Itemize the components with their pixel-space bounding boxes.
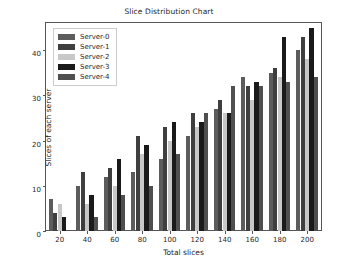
bar-group — [131, 23, 153, 231]
x-tick-mark — [252, 231, 253, 234]
x-tick-mark — [115, 231, 116, 234]
bar-group — [241, 23, 263, 231]
x-tick-mark — [142, 231, 143, 234]
x-tick-mark — [87, 231, 88, 234]
chart-title: Slice Distribution Chart — [0, 7, 338, 16]
bar-group — [269, 23, 291, 231]
bar — [62, 217, 66, 231]
bar — [231, 86, 235, 231]
bar-group — [159, 23, 181, 231]
legend-label: Server-4 — [80, 72, 110, 82]
bar — [204, 113, 208, 231]
x-tick-mark — [170, 231, 171, 234]
bar-group — [186, 23, 208, 231]
legend-swatch-icon — [58, 64, 75, 70]
chart-legend: Server-0Server-1Server-2Server-3Server-4 — [53, 28, 117, 86]
legend-item: Server-3 — [58, 62, 110, 72]
legend-item: Server-4 — [58, 72, 110, 82]
x-axis-label: Total slices — [45, 248, 322, 257]
legend-item: Server-0 — [58, 32, 110, 42]
bar-group — [214, 23, 236, 231]
legend-label: Server-1 — [80, 42, 110, 52]
legend-swatch-icon — [58, 54, 75, 60]
legend-swatch-icon — [58, 34, 75, 40]
bar — [121, 195, 125, 231]
chart-figure: Slice Distribution Chart 010203040 20406… — [0, 0, 338, 268]
bar — [176, 154, 180, 231]
bar — [314, 77, 318, 231]
bar — [149, 186, 153, 231]
legend-label: Server-2 — [80, 52, 110, 62]
bar — [259, 86, 263, 231]
x-tick-mark — [307, 231, 308, 234]
legend-item: Server-2 — [58, 52, 110, 62]
legend-label: Server-0 — [80, 32, 110, 42]
bar — [94, 217, 98, 231]
y-tick-label: 0 — [37, 231, 46, 239]
x-tick-mark — [225, 231, 226, 234]
bar — [286, 82, 290, 231]
x-tick-mark — [280, 231, 281, 234]
legend-label: Server-3 — [80, 62, 110, 72]
x-tick-mark — [197, 231, 198, 234]
bar-group — [296, 23, 318, 231]
legend-item: Server-1 — [58, 42, 110, 52]
x-tick-mark — [60, 231, 61, 234]
legend-swatch-icon — [58, 44, 75, 50]
legend-swatch-icon — [58, 74, 75, 80]
